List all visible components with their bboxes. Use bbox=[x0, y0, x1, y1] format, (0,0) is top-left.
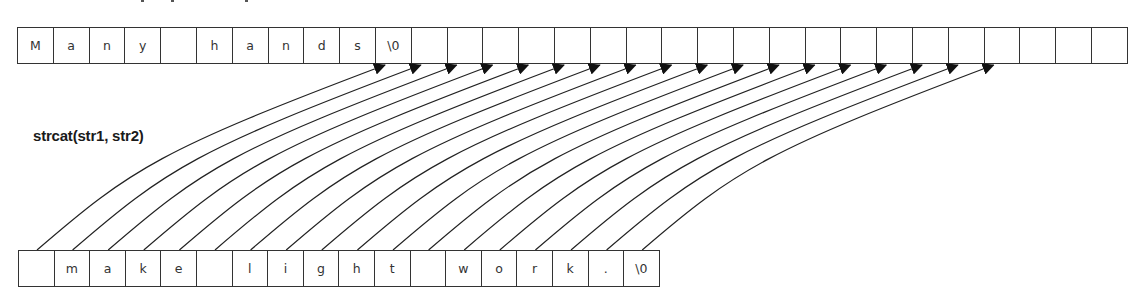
str2-cell: r bbox=[517, 251, 553, 286]
str2-cell: a bbox=[90, 251, 126, 286]
str2-cell bbox=[411, 251, 447, 286]
copy-arrow bbox=[607, 65, 958, 250]
str2-cell: i bbox=[268, 251, 304, 286]
str2-cell: \0 bbox=[624, 251, 660, 286]
copy-arrow bbox=[73, 65, 421, 250]
copy-arrow bbox=[37, 65, 385, 250]
str2-cell: w bbox=[446, 251, 482, 286]
copy-arrow bbox=[642, 65, 993, 250]
str2-array: make light work.\0 bbox=[18, 250, 660, 287]
str2-cell bbox=[19, 251, 55, 286]
copy-arrow bbox=[108, 65, 456, 250]
str2-cell: t bbox=[375, 251, 411, 286]
str2-cell: h bbox=[339, 251, 375, 286]
str2-cell bbox=[197, 251, 233, 286]
copy-arrow bbox=[571, 65, 922, 250]
str2-cell: m bbox=[55, 251, 91, 286]
str2-cell: g bbox=[304, 251, 340, 286]
str2-cell: o bbox=[482, 251, 518, 286]
str2-cell: . bbox=[589, 251, 625, 286]
str2-cell: l bbox=[233, 251, 269, 286]
str2-cell: k bbox=[553, 251, 589, 286]
arrow-group bbox=[37, 65, 994, 250]
str2-cell: e bbox=[161, 251, 197, 286]
copy-arrow bbox=[535, 65, 886, 250]
str2-cell: k bbox=[126, 251, 162, 286]
